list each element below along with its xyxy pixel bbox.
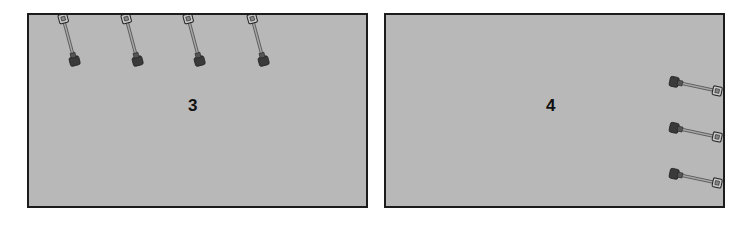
shovel-icon — [386, 15, 727, 210]
panel-label: 4 — [546, 96, 555, 116]
diagram-panel-3: 3 — [27, 13, 368, 208]
diagram-panel-4: 4 — [384, 13, 725, 208]
shovel-icon — [29, 15, 370, 210]
panel-label: 3 — [188, 96, 197, 116]
